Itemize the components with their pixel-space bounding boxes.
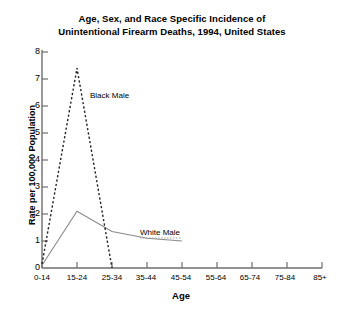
chart-page: Age, Sex, and Race Specific Incidence of… (0, 0, 344, 316)
x-tick-marks (42, 262, 322, 268)
plot-area (0, 0, 344, 316)
y-tick-marks (42, 52, 48, 241)
series-line-black-male (42, 68, 112, 268)
